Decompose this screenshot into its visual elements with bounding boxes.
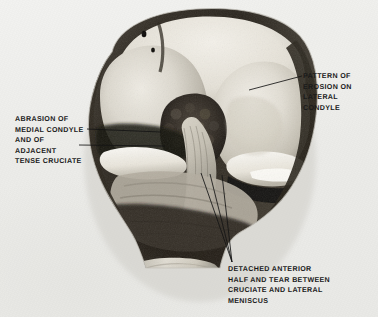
annotation-pattern-of-erosion: PATTERN OFEROSION ONLATERALCONDYLE bbox=[303, 71, 352, 113]
annotation-line: AND OF bbox=[15, 135, 84, 146]
annotation-line: LATERAL bbox=[303, 92, 352, 103]
annotation-line: EROSION ON bbox=[303, 82, 352, 93]
annotation-abrasion-of-medial-condyle: ABRASION OFMEDIAL CONDYLEAND OFADJACENTT… bbox=[15, 114, 84, 167]
anatomy-figure: PATTERN OFEROSION ONLATERALCONDYLEABRASI… bbox=[0, 0, 378, 317]
annotation-line: PATTERN OF bbox=[303, 71, 352, 82]
annotation-detached-anterior-half: DETACHED ANTERIORHALF AND TEAR BETWEENCR… bbox=[228, 264, 330, 306]
annotation-line: CRUCIATE AND LATERAL bbox=[228, 285, 330, 296]
annotation-line: ADJACENT bbox=[15, 146, 84, 157]
annotation-line: MEDIAL CONDYLE bbox=[15, 125, 84, 136]
annotation-line: TENSE CRUCIATE bbox=[15, 156, 84, 167]
annotation-line: HALF AND TEAR BETWEEN bbox=[228, 275, 330, 286]
annotation-line: MENISCUS bbox=[228, 296, 330, 307]
annotation-line: ABRASION OF bbox=[15, 114, 84, 125]
annotation-line: DETACHED ANTERIOR bbox=[228, 264, 330, 275]
annotation-line: CONDYLE bbox=[303, 103, 352, 114]
